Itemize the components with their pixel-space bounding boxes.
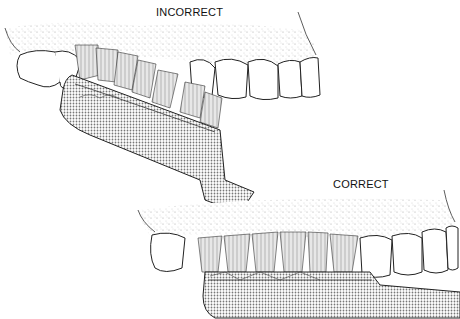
correct-panel (138, 190, 460, 318)
incorrect-label: INCORRECT (156, 6, 223, 18)
dental-illustration (0, 0, 460, 319)
incorrect-panel (5, 12, 320, 213)
correct-label: CORRECT (333, 178, 389, 190)
